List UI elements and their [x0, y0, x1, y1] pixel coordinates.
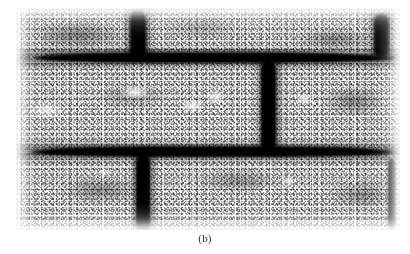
figure-container: (b) [0, 0, 410, 254]
figure-caption: (b) [0, 232, 410, 244]
brick-void-highlight-layer [16, 8, 400, 230]
masonry-wall-photograph [16, 8, 400, 230]
bottom-course-right-edge-joint [388, 158, 396, 230]
top-course-head-joint-right-halo [371, 11, 393, 59]
upper-bed-joint-bleed [44, 52, 344, 60]
bottom-course-head-joint-halo [133, 152, 154, 230]
middle-course-head-joint-halo [258, 58, 280, 154]
lower-bed-joint-bleed [46, 146, 366, 154]
top-course-head-joint-left-halo [126, 8, 150, 60]
